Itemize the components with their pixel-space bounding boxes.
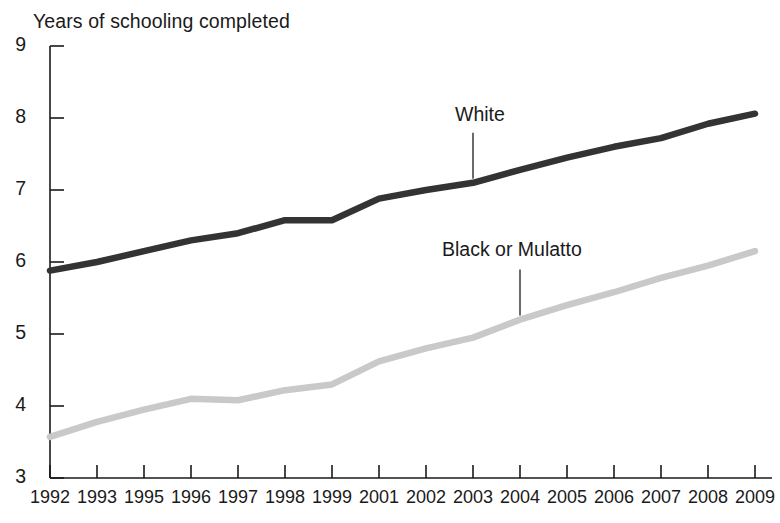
axis-lines <box>50 46 772 478</box>
x-axis-ticks <box>50 465 755 478</box>
y-axis-ticks <box>50 46 64 478</box>
y-tick-label: 3 <box>4 465 26 488</box>
y-tick-label: 5 <box>4 321 26 344</box>
y-tick-label: 6 <box>4 249 26 272</box>
y-tick-label: 7 <box>4 177 26 200</box>
annotation-leader-lines <box>473 133 520 316</box>
series-label-black-or-mulatto: Black or Mulatto <box>442 238 582 261</box>
chart-container: Years of schooling completed 3456789 199… <box>0 0 780 523</box>
y-tick-label: 8 <box>4 105 26 128</box>
y-tick-label: 9 <box>4 33 26 56</box>
series-lines <box>50 114 755 437</box>
series-label-white: White <box>455 103 505 126</box>
series-line-black-or-mulatto <box>50 251 755 437</box>
plot-area <box>0 0 780 523</box>
x-tick-label: 2009 <box>727 487 780 508</box>
y-tick-label: 4 <box>4 393 26 416</box>
series-line-white <box>50 114 755 271</box>
